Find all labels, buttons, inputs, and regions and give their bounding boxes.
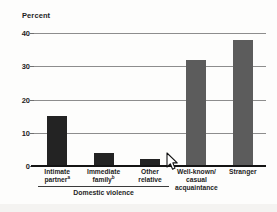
y-axis-title: Percent [22, 11, 50, 20]
y-axis-tick-label: 40 [22, 29, 30, 38]
y-axis-tick-mark [30, 33, 34, 34]
y-axis-tick-mark [30, 133, 34, 134]
group-label: Domestic violence [38, 189, 169, 196]
y-axis-tick-mark [30, 66, 34, 67]
gridline [34, 100, 266, 101]
y-axis-tick-label: 20 [22, 95, 30, 104]
gridline [34, 133, 266, 134]
plot-area: 010203040 [34, 33, 266, 166]
x-axis-category-label: Stranger [213, 168, 273, 176]
bar [186, 60, 206, 166]
bar-chart: Percent 010203040 IntimatepartneraImmedi… [0, 0, 277, 212]
gridline [34, 66, 266, 67]
bar [47, 116, 67, 166]
y-axis-tick-label: 30 [22, 62, 30, 71]
bar [233, 40, 253, 166]
y-axis-tick-mark [30, 100, 34, 101]
bar [94, 153, 114, 166]
x-axis-baseline [31, 165, 266, 167]
gridline [34, 33, 266, 34]
page-margin-strip [0, 204, 277, 212]
group-bracket-rule [38, 186, 169, 187]
y-axis-tick-label: 10 [22, 128, 30, 137]
